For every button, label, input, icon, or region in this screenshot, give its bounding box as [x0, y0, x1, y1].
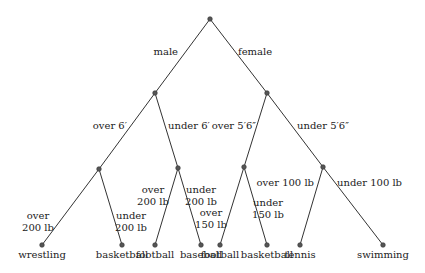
decision-node: [208, 17, 213, 22]
leaf-node: [218, 243, 223, 248]
edge-label: over 6′: [93, 120, 128, 131]
edge-label: female: [238, 46, 272, 57]
edge-label: over 5′6″: [212, 120, 257, 131]
leaf-label-football: football: [136, 249, 175, 260]
tree-edge: [42, 169, 99, 245]
leaf-label-tennis: tennis: [284, 249, 315, 260]
edge-label: under 6′: [168, 120, 211, 131]
tree-edge: [99, 169, 122, 245]
edge-label: over150 lb: [195, 207, 227, 230]
leaf-label-football: football: [201, 249, 240, 260]
edge-label: under200 lb: [185, 184, 217, 207]
edge-labels: malefemaleover 6′under 6′over 5′6″under …: [22, 46, 402, 233]
edge-label: over200 lb: [22, 210, 54, 233]
leaf-labels: wrestlingbasketballfootballbaseballfootb…: [18, 249, 409, 260]
edge-label: under150 lb: [252, 197, 284, 220]
leaf-node: [199, 243, 204, 248]
edge-label: male: [153, 46, 178, 57]
tree-edge: [99, 93, 155, 169]
decision-node: [265, 91, 270, 96]
edge-label: over200 lb: [137, 184, 169, 207]
leaf-label-swimming: swimming: [357, 249, 409, 260]
decision-tree-diagram: malefemaleover 6′under 6′over 5′6″under …: [0, 0, 425, 273]
decision-node: [321, 165, 326, 170]
leaf-node: [120, 243, 125, 248]
edge-label: under200 lb: [115, 210, 147, 233]
decision-node: [97, 167, 102, 172]
leaf-node: [381, 243, 386, 248]
decision-node: [153, 91, 158, 96]
tree-edge: [220, 167, 244, 245]
edge-label: under 5′6″: [297, 120, 349, 131]
decision-node: [242, 165, 247, 170]
leaf-node: [153, 243, 158, 248]
decision-node: [176, 166, 181, 171]
leaf-node: [265, 243, 270, 248]
edge-label: over 100 lb: [257, 177, 314, 188]
leaf-label-wrestling: wrestling: [18, 249, 66, 260]
leaf-node: [298, 243, 303, 248]
edge-label: under 100 lb: [337, 177, 402, 188]
leaf-node: [40, 243, 45, 248]
